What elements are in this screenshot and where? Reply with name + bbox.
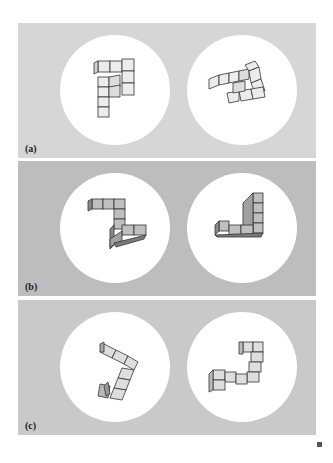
disc-c-right (187, 312, 297, 422)
cube-object-icon (60, 312, 170, 422)
panel-label-c: (c) (25, 420, 36, 431)
disc-b-right (187, 173, 297, 283)
disc-a-right (187, 35, 297, 145)
panel-a: (a) (18, 23, 316, 158)
panel-label-b: (b) (25, 281, 37, 292)
disc-a-left (60, 35, 170, 145)
cube-object-icon (187, 35, 297, 145)
panel-label-a: (a) (25, 143, 37, 154)
disc-c-left (60, 312, 170, 422)
cube-object-icon (187, 312, 297, 422)
panel-b: (b) (18, 161, 316, 296)
panel-c: (c) (18, 300, 316, 435)
cube-object-icon (187, 173, 297, 283)
cube-object-icon (60, 173, 170, 283)
disc-b-left (60, 173, 170, 283)
cube-object-icon (60, 35, 170, 145)
end-of-figure-mark-icon (317, 442, 322, 447)
